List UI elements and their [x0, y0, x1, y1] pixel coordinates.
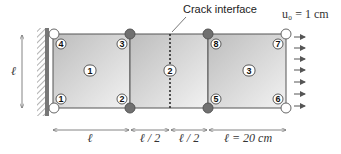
element-1-label: 1 [87, 66, 92, 76]
node-7-marker [281, 29, 291, 39]
dimension-4-label: ℓ = 20 cm [224, 131, 272, 145]
crack-interface-label: Crack interface [183, 3, 257, 15]
fixed-wall [45, 28, 49, 116]
element-2-label: 2 [167, 66, 172, 76]
node-8-label: 8 [213, 39, 218, 49]
node-4-label: 4 [58, 39, 63, 49]
node-4-marker [49, 29, 59, 39]
node-1-label: 1 [58, 94, 63, 104]
node-8-marker [203, 29, 213, 39]
node-1-marker [49, 103, 59, 113]
height-label: ℓ [11, 64, 16, 78]
node-2-marker [125, 103, 135, 113]
crack-leader [172, 17, 186, 32]
node-6-label: 6 [275, 94, 280, 104]
node-3-label: 3 [119, 39, 124, 49]
dimension-1-label: ℓ [88, 131, 93, 145]
fem-diagram: Crack interface u₀ = 1 cm 4 1 3 2 8 5 7 … [0, 0, 341, 154]
dimension-2-label: ℓ / 2 [140, 131, 160, 145]
load-arrows [294, 37, 305, 106]
node-6-marker [281, 103, 291, 113]
node-7-label: 7 [275, 39, 280, 49]
element-3-label: 3 [246, 66, 251, 76]
fixed-wall-hatch [37, 28, 46, 116]
node-5-label: 5 [213, 94, 218, 104]
displacement-label: u₀ = 1 cm [282, 7, 329, 21]
node-2-label: 2 [119, 94, 124, 104]
node-3-marker [125, 29, 135, 39]
dimension-3-label: ℓ / 2 [179, 131, 199, 145]
node-5-marker [203, 103, 213, 113]
